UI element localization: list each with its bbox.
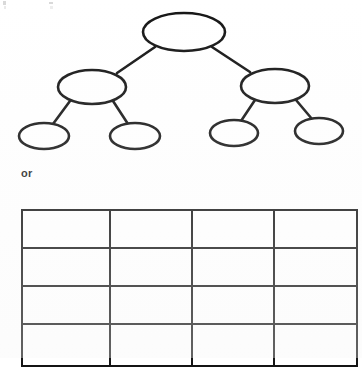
table-cell[interactable] — [192, 248, 274, 286]
table-cell[interactable] — [22, 210, 110, 248]
table-cell[interactable] — [22, 324, 110, 366]
table-cell[interactable] — [192, 210, 274, 248]
table-cell[interactable] — [110, 210, 192, 248]
table-row — [22, 210, 357, 248]
tree-node-mid-right[interactable] — [241, 69, 309, 103]
tree-node-group — [19, 13, 343, 149]
table-cell[interactable] — [110, 324, 192, 366]
table-cell[interactable] — [22, 248, 110, 286]
table-grid — [21, 209, 348, 361]
tree-edge-mid-left-to-leaf-1 — [53, 101, 70, 124]
tree-node-leaf-1[interactable] — [19, 123, 69, 149]
blank-table — [21, 209, 358, 367]
tree-node-root[interactable] — [143, 13, 225, 51]
table-body — [22, 210, 357, 366]
connector-label: or — [21, 166, 32, 180]
tree-diagram — [0, 0, 362, 160]
table-cell[interactable] — [192, 286, 274, 324]
tree-node-leaf-3[interactable] — [210, 120, 258, 146]
table-cell[interactable] — [22, 286, 110, 324]
table-cell[interactable] — [192, 324, 274, 366]
table-row — [22, 286, 357, 324]
tree-edge-root-to-mid-right — [212, 47, 250, 72]
table-cell[interactable] — [274, 210, 357, 248]
tree-node-leaf-4[interactable] — [295, 118, 343, 144]
tree-edge-mid-right-to-leaf-3 — [241, 100, 255, 121]
tree-node-mid-left[interactable] — [58, 70, 126, 104]
table-cell[interactable] — [110, 248, 192, 286]
table-cell[interactable] — [274, 286, 357, 324]
table-row — [22, 324, 357, 366]
tree-edge-mid-right-to-leaf-4 — [296, 100, 312, 119]
tree-edge-root-to-mid-left — [117, 47, 155, 73]
tree-node-leaf-2[interactable] — [110, 123, 160, 149]
tree-edge-mid-left-to-leaf-2 — [113, 101, 128, 124]
table-cell[interactable] — [110, 286, 192, 324]
table-row — [22, 248, 357, 286]
table-cell[interactable] — [274, 248, 357, 286]
table-cell[interactable] — [274, 324, 357, 366]
